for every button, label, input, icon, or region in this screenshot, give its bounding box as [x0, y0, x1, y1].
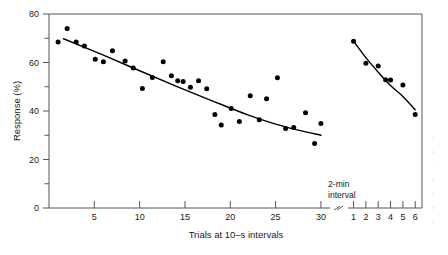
data-point — [140, 86, 145, 91]
chart-background — [0, 0, 448, 255]
x-tick-label-post-6: 6 — [413, 212, 418, 222]
data-point — [123, 59, 128, 64]
data-point — [212, 112, 217, 117]
y-tick-label-80: 80 — [29, 9, 39, 19]
data-point — [318, 121, 323, 126]
x-tick-label-15: 15 — [180, 212, 190, 222]
data-point — [204, 86, 209, 91]
data-point — [363, 61, 368, 66]
y-axis-label: Response (%) — [11, 81, 22, 141]
edge-text-fragment: | — [432, 135, 433, 141]
data-point — [283, 126, 288, 131]
data-point — [312, 141, 317, 146]
data-point — [376, 63, 381, 68]
data-point — [388, 77, 393, 82]
edge-text-fragment: n — [432, 219, 435, 225]
x-tick-label-post-2: 2 — [363, 212, 368, 222]
data-point — [169, 73, 174, 78]
data-point — [65, 26, 70, 31]
x-tick-label-10: 10 — [135, 212, 145, 222]
data-point — [219, 123, 224, 128]
data-point — [237, 119, 242, 124]
data-point — [264, 96, 269, 101]
data-point — [161, 59, 166, 64]
data-point — [181, 79, 186, 84]
data-point — [188, 85, 193, 90]
data-point — [131, 66, 136, 71]
x-tick-label-post-4: 4 — [388, 212, 393, 222]
data-point — [101, 59, 106, 64]
data-point — [291, 125, 296, 130]
x-tick-label-post-1: 1 — [351, 212, 356, 222]
x-tick-label-25: 25 — [271, 212, 281, 222]
x-tick-label-30: 30 — [316, 212, 326, 222]
x-tick-label-20: 20 — [225, 212, 235, 222]
interval-annotation-line1: 2-min — [328, 179, 350, 189]
y-tick-label-40: 40 — [29, 106, 39, 116]
y-tick-label-0: 0 — [34, 203, 39, 213]
data-point — [110, 48, 115, 53]
data-point — [56, 39, 61, 44]
data-point — [400, 83, 405, 88]
data-point — [229, 106, 234, 111]
data-point — [196, 78, 201, 83]
chart-canvas: 020406080 51015202530 123456 2-min inter… — [0, 0, 448, 255]
data-point — [82, 44, 87, 49]
data-point — [383, 77, 388, 82]
response-decline-chart: 020406080 51015202530 123456 2-min inter… — [0, 0, 448, 255]
data-point — [351, 39, 356, 44]
edge-text-fragment: e — [432, 177, 435, 183]
x-tick-label-post-5: 5 — [400, 212, 405, 222]
data-point — [93, 57, 98, 62]
x-axis-label: Trials at 10–s intervals — [189, 229, 284, 240]
edge-text-fragment: l — [432, 191, 433, 197]
interval-annotation-line2: interval — [328, 190, 356, 200]
data-point — [248, 93, 253, 98]
data-point — [413, 112, 418, 117]
data-point — [74, 39, 79, 44]
x-tick-label-5: 5 — [92, 212, 97, 222]
y-tick-label-20: 20 — [29, 155, 39, 165]
y-tick-label-60: 60 — [29, 58, 39, 68]
data-point — [257, 117, 262, 122]
data-point — [275, 75, 280, 80]
x-tick-label-post-3: 3 — [376, 212, 381, 222]
data-point — [175, 78, 180, 83]
data-point — [303, 110, 308, 115]
edge-text-fragment: T — [432, 205, 435, 211]
data-point — [150, 75, 155, 80]
